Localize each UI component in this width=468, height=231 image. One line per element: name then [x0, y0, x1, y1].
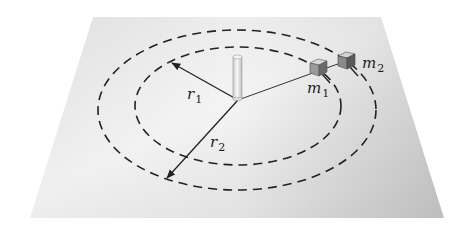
mass-m2-cube — [338, 52, 355, 69]
horizontal-plane — [30, 17, 444, 218]
central-post — [233, 55, 242, 101]
mass-m1-cube — [310, 59, 327, 76]
rotating-masses-diagram: r1 r2 m1 m2 — [0, 0, 468, 231]
